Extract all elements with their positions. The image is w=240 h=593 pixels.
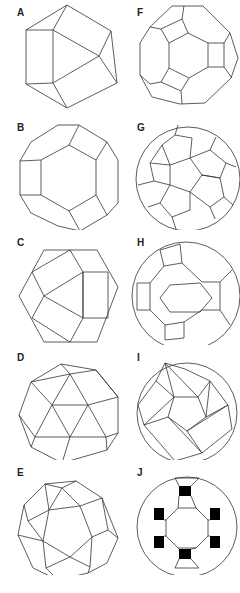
panel-f: F xyxy=(120,0,240,115)
polyhedron-b-drawing xyxy=(0,115,120,230)
panel-c: C xyxy=(0,230,120,345)
polyhedron-i-drawing xyxy=(120,345,240,460)
polyhedron-d-drawing xyxy=(0,345,120,460)
panel-g: G xyxy=(120,115,240,230)
polyhedron-f-drawing xyxy=(120,0,240,115)
panel-h: H xyxy=(120,230,240,345)
panel-j: J xyxy=(120,460,240,575)
polyhedron-a-drawing xyxy=(0,0,120,115)
panel-d: D xyxy=(0,345,120,460)
panel-b: B xyxy=(0,115,120,230)
polyhedron-c-drawing xyxy=(0,230,120,345)
polyhedron-e-drawing xyxy=(0,460,120,575)
panel-e: E xyxy=(0,460,120,575)
polyhedron-g-drawing xyxy=(120,115,240,230)
polyhedron-j-drawing xyxy=(120,460,240,575)
polyhedron-h-drawing xyxy=(120,230,240,345)
panel-i: I xyxy=(120,345,240,460)
panel-a: A xyxy=(0,0,120,115)
